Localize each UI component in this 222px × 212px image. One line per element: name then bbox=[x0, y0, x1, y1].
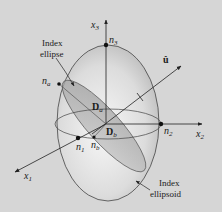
na-label: na bbox=[42, 75, 51, 88]
u-label: û bbox=[163, 54, 169, 65]
n2-label: n2 bbox=[164, 125, 173, 138]
point-n2 bbox=[159, 122, 163, 126]
x3-label: x3 bbox=[90, 19, 99, 32]
point-na bbox=[57, 82, 61, 86]
x1-label: x1 bbox=[23, 170, 32, 183]
index-ellipsoid-label: Index ellipsoid bbox=[150, 178, 182, 199]
index-ellipsoid-diagram: x3 x2 x1 û n3 n2 n1 na nb Da Db Index el… bbox=[0, 0, 222, 212]
x2-label: x2 bbox=[195, 128, 204, 141]
point-n1 bbox=[76, 136, 80, 140]
point-n3 bbox=[104, 43, 108, 47]
index-ellipse-label: Index ellipse bbox=[40, 38, 65, 59]
